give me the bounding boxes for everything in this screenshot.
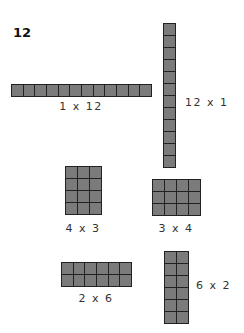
unit-square xyxy=(189,204,200,215)
unit-square xyxy=(85,275,96,286)
unit-square xyxy=(66,167,77,178)
array-label-6x2: 6 x 2 xyxy=(196,279,231,292)
array-grid-12x1 xyxy=(163,23,176,168)
unit-square xyxy=(164,48,175,59)
unit-square xyxy=(177,192,188,203)
unit-square xyxy=(164,24,175,35)
unit-square xyxy=(97,275,108,286)
unit-square xyxy=(165,180,176,191)
unit-square xyxy=(177,276,188,287)
array-grid-6x2 xyxy=(164,251,189,324)
unit-square xyxy=(62,263,73,274)
unit-square xyxy=(164,60,175,71)
unit-square xyxy=(85,263,96,274)
unit-square xyxy=(109,275,120,286)
unit-square xyxy=(165,252,176,263)
array-label-1x12: 1 x 12 xyxy=(59,100,103,113)
array-grid-3x4 xyxy=(152,179,201,216)
unit-square xyxy=(140,85,151,96)
unit-square xyxy=(153,192,164,203)
array-label-3x4: 3 x 4 xyxy=(159,222,194,235)
unit-square xyxy=(117,85,128,96)
unit-square xyxy=(164,84,175,95)
unit-square xyxy=(165,276,176,287)
unit-square xyxy=(35,85,46,96)
array-grid-4x3 xyxy=(65,166,102,215)
unit-square xyxy=(70,85,81,96)
unit-square xyxy=(164,96,175,107)
unit-square xyxy=(66,179,77,190)
unit-square xyxy=(165,192,176,203)
array-grid-2x6 xyxy=(61,262,132,287)
array-label-12x1: 12 x 1 xyxy=(185,96,229,109)
unit-square xyxy=(90,179,101,190)
unit-square xyxy=(177,312,188,323)
unit-square xyxy=(62,275,73,286)
unit-square xyxy=(153,204,164,215)
unit-square xyxy=(165,312,176,323)
unit-square xyxy=(105,85,116,96)
unit-square xyxy=(129,85,140,96)
unit-square xyxy=(74,263,85,274)
unit-square xyxy=(82,85,93,96)
array-label-4x3: 4 x 3 xyxy=(66,222,101,235)
unit-square xyxy=(78,191,89,202)
unit-square xyxy=(24,85,35,96)
unit-square xyxy=(177,180,188,191)
unit-square xyxy=(164,156,175,167)
unit-square xyxy=(78,179,89,190)
unit-square xyxy=(177,300,188,311)
unit-square xyxy=(66,203,77,214)
unit-square xyxy=(164,36,175,47)
unit-square xyxy=(78,167,89,178)
unit-square xyxy=(177,288,188,299)
unit-square xyxy=(94,85,105,96)
unit-square xyxy=(78,203,89,214)
unit-square xyxy=(90,203,101,214)
unit-square xyxy=(165,264,176,275)
unit-square xyxy=(164,120,175,131)
unit-square xyxy=(189,180,200,191)
unit-square xyxy=(74,275,85,286)
unit-square xyxy=(120,263,131,274)
unit-square xyxy=(90,191,101,202)
unit-square xyxy=(189,192,200,203)
unit-square xyxy=(177,264,188,275)
unit-square xyxy=(165,288,176,299)
unit-square xyxy=(177,252,188,263)
unit-square xyxy=(97,263,108,274)
unit-square xyxy=(164,108,175,119)
unit-square xyxy=(164,72,175,83)
unit-square xyxy=(164,132,175,143)
array-label-2x6: 2 x 6 xyxy=(79,292,114,305)
unit-square xyxy=(12,85,23,96)
array-grid-1x12 xyxy=(11,84,152,97)
unit-square xyxy=(120,275,131,286)
unit-square xyxy=(165,204,176,215)
unit-square xyxy=(165,300,176,311)
unit-square xyxy=(177,204,188,215)
unit-square xyxy=(47,85,58,96)
unit-square xyxy=(66,191,77,202)
unit-square xyxy=(109,263,120,274)
number-title: 12 xyxy=(13,25,31,40)
unit-square xyxy=(153,180,164,191)
unit-square xyxy=(90,167,101,178)
unit-square xyxy=(164,144,175,155)
unit-square xyxy=(59,85,70,96)
